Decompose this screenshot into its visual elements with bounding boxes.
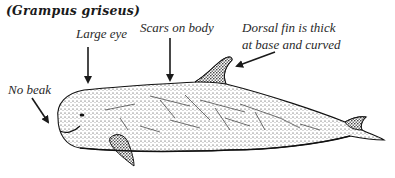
dorsal-fin [195, 57, 232, 84]
diagram-canvas: (Grampus griseus) Large eye Scars on bod… [0, 0, 395, 178]
arrow-no-beak [32, 98, 48, 122]
dolphin-illustration [0, 0, 395, 178]
eye [80, 113, 85, 116]
arrow-dorsal-fin [237, 52, 275, 66]
